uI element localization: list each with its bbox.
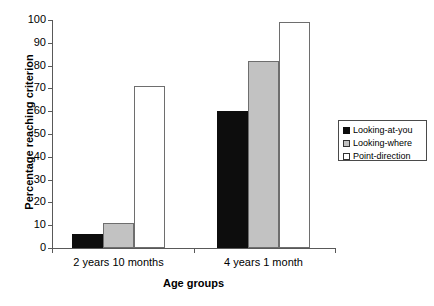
y-tick-label: 40 xyxy=(10,151,46,162)
legend-swatch-looking-where xyxy=(343,140,350,147)
x-axis-title: Age groups xyxy=(52,277,335,289)
chart-legend: Looking-at-you Looking-where Point-direc… xyxy=(338,120,427,161)
y-tick xyxy=(48,66,53,67)
bar-point-direction-1 xyxy=(279,22,310,248)
y-tick-label: 60 xyxy=(10,105,46,116)
legend-item-point-direction: Point-direction xyxy=(343,150,426,162)
y-tick-label: 80 xyxy=(10,60,46,71)
bar-chart-figure: Percentage reaching criterion 0102030405… xyxy=(0,0,434,306)
y-tick xyxy=(48,157,53,158)
legend-label-looking-where: Looking-where xyxy=(353,139,412,148)
y-tick xyxy=(48,202,53,203)
x-tick xyxy=(52,248,53,253)
legend-label-point-direction: Point-direction xyxy=(353,152,411,161)
y-tick-label: 30 xyxy=(10,174,46,185)
y-tick-label: 10 xyxy=(10,219,46,230)
legend-swatch-point-direction xyxy=(343,153,350,160)
bar-looking-where-1 xyxy=(248,61,279,248)
plot-area: 0102030405060708090100 xyxy=(52,20,335,248)
y-tick-label: 20 xyxy=(10,196,46,207)
y-tick xyxy=(48,180,53,181)
y-tick-label: 0 xyxy=(10,242,46,253)
legend-swatch-looking-at-you xyxy=(343,127,350,134)
y-tick xyxy=(48,20,53,21)
bar-point-direction-0 xyxy=(134,86,165,248)
y-tick xyxy=(48,43,53,44)
y-tick xyxy=(48,134,53,135)
bar-looking-where-0 xyxy=(103,223,134,248)
y-tick xyxy=(48,111,53,112)
y-tick xyxy=(48,88,53,89)
y-tick xyxy=(48,225,53,226)
y-tick-label: 50 xyxy=(10,128,46,139)
x-tick xyxy=(194,248,195,253)
figure-caption xyxy=(36,302,416,306)
bar-looking-at-you-0 xyxy=(72,234,103,248)
bar-looking-at-you-1 xyxy=(217,111,248,248)
x-category-label: 2 years 10 months xyxy=(49,256,189,268)
x-tick xyxy=(335,248,336,253)
legend-item-looking-at-you: Looking-at-you xyxy=(343,124,426,136)
y-tick-label: 90 xyxy=(10,37,46,48)
y-tick-label: 70 xyxy=(10,82,46,93)
legend-label-looking-at-you: Looking-at-you xyxy=(353,126,413,135)
x-category-label: 4 years 1 month xyxy=(194,256,334,268)
legend-item-looking-where: Looking-where xyxy=(343,137,426,149)
y-tick-label: 100 xyxy=(10,14,46,25)
